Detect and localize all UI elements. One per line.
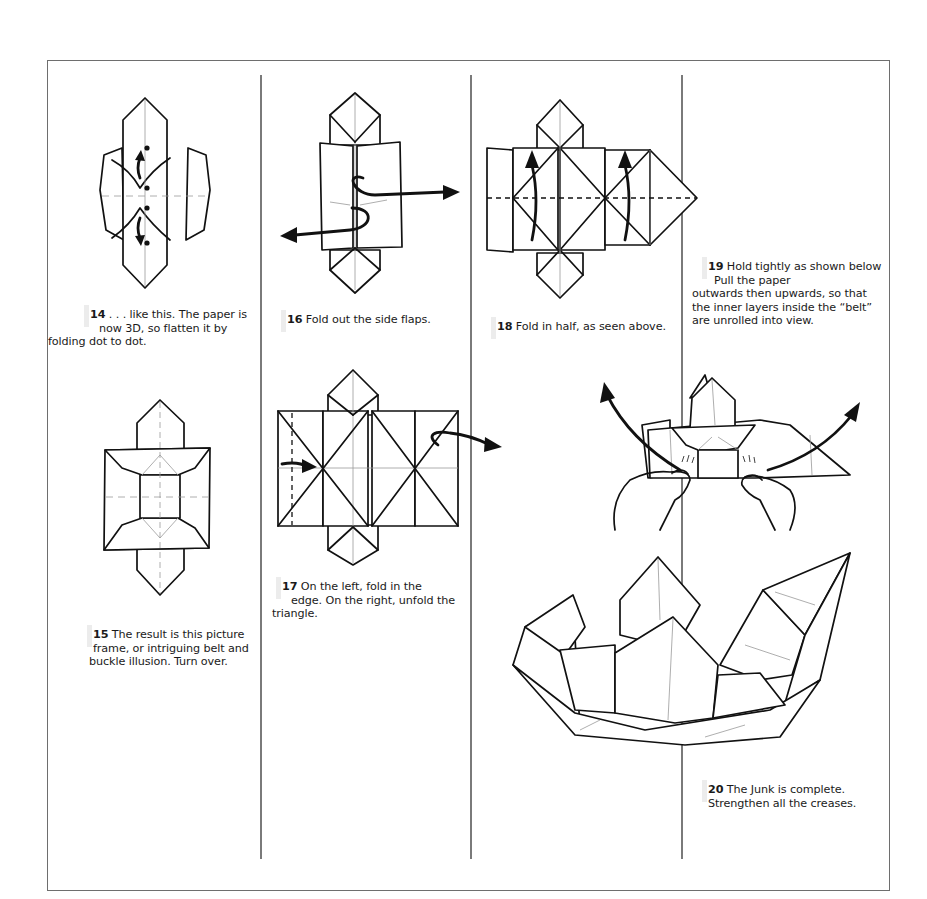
step-19-caption: 19 Hold tightly as shown below Pull the …	[708, 260, 881, 328]
step-15-diagram	[100, 400, 220, 600]
step-marker	[702, 257, 707, 279]
step-number: 16	[287, 313, 302, 326]
step-marker	[491, 317, 496, 339]
step-text: folding dot to dot.	[48, 335, 147, 348]
step-marker	[84, 305, 89, 327]
step-20-diagram	[505, 545, 875, 755]
step-text: The result is this picture	[108, 628, 244, 641]
step-17-caption: 17 On the left, fold in the edge. On the…	[282, 580, 455, 621]
step-number: 15	[93, 628, 108, 641]
step-number: 17	[282, 580, 297, 593]
step-text: the inner layers inside the “belt”	[692, 301, 872, 314]
step-text: The Junk is complete.	[723, 783, 845, 796]
step-text: . . . like this. The paper is	[105, 308, 247, 321]
step-marker	[276, 577, 281, 599]
step-text: Strengthen all the creases.	[708, 797, 856, 810]
step-text: outwards then upwards, so that	[692, 287, 867, 300]
step-text: buckle illusion. Turn over.	[89, 655, 228, 668]
step-19-diagram	[590, 370, 870, 530]
step-text: Hold tightly as shown below	[723, 260, 881, 273]
step-18-caption: 18 Fold in half, as seen above.	[497, 320, 666, 334]
step-16-caption: 16 Fold out the side flaps.	[287, 313, 431, 327]
step-17-diagram	[270, 355, 510, 565]
step-text: are unrolled into view.	[692, 314, 814, 327]
step-text: On the left, fold in the	[297, 580, 421, 593]
step-text: edge. On the right, unfold the	[282, 594, 455, 607]
step-16-diagram	[275, 90, 465, 290]
step-14-diagram	[90, 90, 220, 290]
step-14-caption: 14 . . . like this. The paper is now 3D,…	[90, 308, 247, 349]
step-marker	[702, 780, 707, 802]
step-number: 19	[708, 260, 723, 273]
step-marker	[281, 310, 286, 332]
step-number: 14	[90, 308, 105, 321]
step-text: triangle.	[272, 607, 318, 620]
step-text: Fold in half, as seen above.	[512, 320, 666, 333]
step-18-diagram	[485, 90, 700, 300]
step-number: 18	[497, 320, 512, 333]
step-text: now 3D, so flatten it by	[90, 322, 227, 335]
step-15-caption: 15 The result is this picture frame, or …	[93, 628, 249, 669]
step-20-caption: 20 The Junk is complete. Strengthen all …	[708, 783, 856, 810]
step-text: frame, or intriguing belt and	[93, 642, 249, 655]
step-text: Fold out the side flaps.	[302, 313, 430, 326]
step-text: Pull the paper	[708, 274, 790, 287]
step-number: 20	[708, 783, 723, 796]
step-marker	[87, 625, 92, 647]
column-divider-1	[260, 75, 262, 859]
